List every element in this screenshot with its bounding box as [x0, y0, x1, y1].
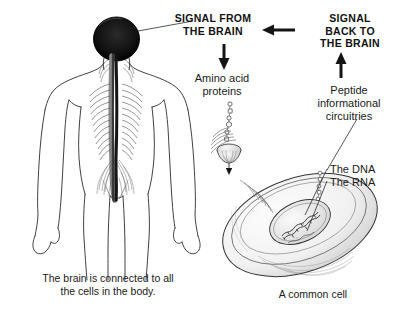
caption-brain-line1: The brain is connected to all [8, 272, 208, 285]
figure-root: SIGNAL FROM THE BRAIN SIGNAL BACK TO THE… [0, 0, 403, 322]
caption-brain: The brain is connected to all the cells … [8, 272, 208, 298]
label-peptide-line3: circuitries [294, 110, 403, 123]
label-the-dna: The DNA [330, 163, 375, 176]
label-the-rna: The RNA [330, 176, 375, 189]
heading-signal-from-brain: SIGNAL FROM THE BRAIN [158, 12, 268, 37]
heading-signal-from-brain-line1: SIGNAL FROM [158, 12, 268, 25]
caption-cell: A common cell [248, 288, 378, 301]
caption-brain-line2: the cells in the body. [8, 285, 208, 298]
label-peptide-informational-circuitries: Peptide informational circuitries [294, 84, 403, 123]
human-figure-illustration [33, 17, 200, 280]
label-peptide-line2: informational [294, 97, 403, 110]
peptide-chain-illustration [211, 102, 241, 175]
heading-signal-back-to-brain-line3: THE BRAIN [300, 37, 400, 50]
arrow-down-to-amino [219, 44, 230, 70]
heading-signal-back-to-brain-line2: BACK TO [300, 25, 400, 38]
label-amino-acid-proteins-line2: proteins [176, 85, 268, 98]
arrow-up-from-peptide [336, 52, 347, 78]
heading-signal-back-to-brain-line1: SIGNAL [300, 12, 400, 25]
label-amino-acid-proteins: Amino acid proteins [176, 72, 268, 98]
label-amino-acid-proteins-line1: Amino acid [176, 72, 268, 85]
label-peptide-line1: Peptide [294, 84, 403, 97]
heading-signal-back-to-brain: SIGNAL BACK TO THE BRAIN [300, 12, 400, 50]
heading-signal-from-brain-line2: THE BRAIN [158, 25, 268, 38]
